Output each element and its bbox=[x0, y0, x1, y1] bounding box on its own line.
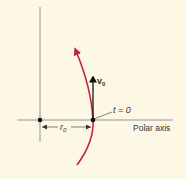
radius-subscript: 0 bbox=[63, 127, 66, 133]
time-label: t = 0 bbox=[113, 106, 131, 115]
diagram-canvas bbox=[0, 0, 186, 179]
initial-position-point bbox=[91, 118, 96, 123]
origin-point bbox=[38, 118, 43, 123]
velocity-subscript: 0 bbox=[102, 81, 105, 87]
radius-label: r0 bbox=[60, 123, 66, 133]
velocity-label: v0 bbox=[97, 77, 105, 87]
trajectory-curve bbox=[76, 51, 93, 165]
time-label-text: t = 0 bbox=[113, 105, 131, 115]
polar-axis-label: Polar axis bbox=[133, 124, 170, 133]
time-leader-line bbox=[94, 112, 112, 119]
polar-diagram: v0 t = 0 r0 Polar axis bbox=[0, 0, 186, 179]
